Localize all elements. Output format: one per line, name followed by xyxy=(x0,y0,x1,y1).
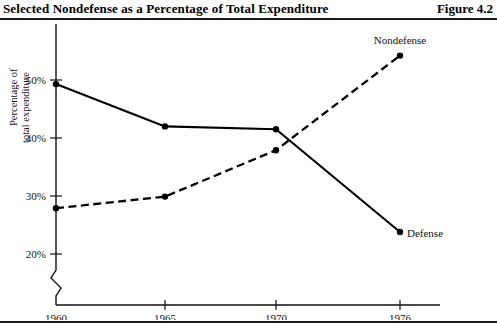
y-tick-label-30: 30% xyxy=(26,190,46,202)
x-tick-label-1965: 1965 xyxy=(154,312,177,320)
data-point-defense-1976 xyxy=(397,229,403,235)
data-point-nondefense-1960 xyxy=(53,205,59,211)
data-point-defense-1960 xyxy=(53,81,59,87)
figure-number-label: Figure 4.2 xyxy=(437,1,493,17)
y-axis-title-line1: Percentage of xyxy=(8,68,19,126)
x-tick-label-1976: 1976 xyxy=(389,312,412,320)
x-tick-label-1970: 1970 xyxy=(265,312,288,320)
y-tick-label-50: 50% xyxy=(26,74,46,86)
series-label-nondefense: Nondefense xyxy=(374,34,427,46)
page-title: Selected Nondefense as a Percentage of T… xyxy=(3,1,328,17)
series-label-defense: Defense xyxy=(407,227,443,239)
data-point-defense-1965 xyxy=(162,123,168,129)
y-tick-label-40: 40% xyxy=(26,132,46,144)
series-markers-nondefense xyxy=(53,52,403,211)
figure-header: Selected Nondefense as a Percentage of T… xyxy=(0,0,497,19)
figure-page: Selected Nondefense as a Percentage of T… xyxy=(0,0,497,333)
figure-divider-bottom xyxy=(0,321,497,323)
data-point-nondefense-1965 xyxy=(162,193,168,199)
y-axis-line xyxy=(51,24,61,305)
x-tick-label-1960: 1960 xyxy=(45,312,68,320)
data-point-defense-1970 xyxy=(273,126,279,132)
y-tick-label-20: 20% xyxy=(26,248,46,260)
data-point-nondefense-1976 xyxy=(397,52,403,58)
series-line-defense xyxy=(56,84,400,232)
line-chart: Percentage of total expenditure 50% 40% … xyxy=(0,20,497,320)
series-line-nondefense xyxy=(56,56,400,209)
data-point-nondefense-1970 xyxy=(273,147,279,153)
